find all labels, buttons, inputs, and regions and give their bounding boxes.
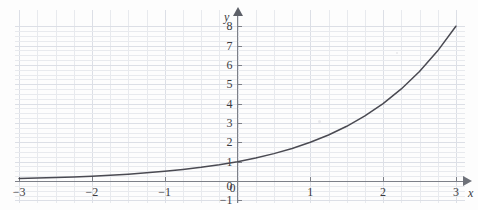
graph-figure: −3−2−10123−1012345678 x y xyxy=(0,0,478,210)
function-curve xyxy=(0,0,478,210)
scan-speck xyxy=(396,52,398,54)
scan-speck xyxy=(318,120,321,123)
